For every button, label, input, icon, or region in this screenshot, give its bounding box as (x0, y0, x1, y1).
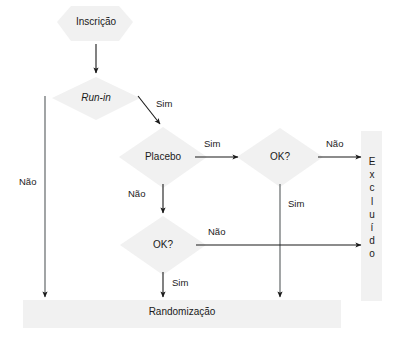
edge-label-ok-bottom-sim: Sim (172, 277, 188, 288)
edge-label-ok-bottom-nao: Não (208, 226, 225, 237)
node-label-runin: Run-in (58, 93, 134, 104)
edge-label-placebo-sim: Sim (204, 138, 220, 149)
flowchart-canvas: Inscrição Run-in Placebo OK? OK? Randomi… (0, 0, 412, 349)
edge-label-ok-top-nao: Não (326, 138, 343, 149)
excluido-letter-1: E (362, 155, 382, 168)
excluido-letter-7: d (362, 234, 382, 247)
edge-label-ok-top-sim: Sim (288, 198, 304, 209)
excluido-letter-3: c (362, 181, 382, 194)
edge-label-runin-sim: Sim (156, 98, 172, 109)
excluido-letter-4: l (362, 195, 382, 208)
node-label-inscricao: Inscrição (58, 17, 134, 28)
node-label-placebo: Placebo (125, 152, 201, 163)
excluido-letter-8: o (362, 247, 382, 260)
edge-label-runin-nao: Não (19, 176, 36, 187)
node-label-excluido: E x c l u í d o (362, 155, 382, 261)
node-label-ok-top: OK? (242, 152, 318, 163)
excluido-letter-5: u (362, 208, 382, 221)
excluido-letter-2: x (362, 168, 382, 181)
edge-label-placebo-nao: Não (128, 188, 145, 199)
node-label-ok-bottom: OK? (125, 240, 201, 251)
excluido-letter-6: í (362, 221, 382, 234)
flowchart-graphics (0, 0, 412, 349)
node-label-randomizacao: Randomização (122, 307, 242, 318)
